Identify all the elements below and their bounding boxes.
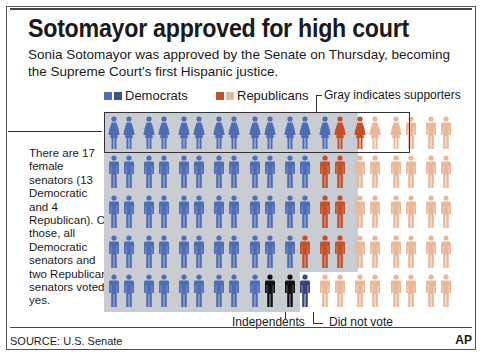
male-senator-icon xyxy=(405,195,417,229)
legend-democrats: Democrats xyxy=(104,88,188,103)
male-senator-icon xyxy=(193,235,205,269)
dem-dark-swatch-icon xyxy=(114,92,122,100)
male-senator-icon xyxy=(334,155,346,189)
male-senator-icon xyxy=(249,155,261,189)
male-senator-icon xyxy=(354,274,366,308)
male-senator-icon xyxy=(425,195,437,229)
male-senator-icon xyxy=(440,116,452,150)
male-senator-icon xyxy=(299,195,311,229)
male-senator-icon xyxy=(390,235,402,269)
legend-republicans-label: Republicans xyxy=(237,88,309,103)
male-senator-icon xyxy=(440,195,452,229)
male-senator-icon xyxy=(390,155,402,189)
source-label: SOURCE: U.S. Senate xyxy=(10,335,123,347)
male-senator-icon xyxy=(213,235,225,269)
male-senator-icon xyxy=(249,274,261,308)
male-senator-icon xyxy=(390,195,402,229)
male-senator-icon xyxy=(123,235,135,269)
legend-democrats-label: Democrats xyxy=(125,88,188,103)
male-senator-icon xyxy=(228,274,240,308)
male-senator-icon xyxy=(369,235,381,269)
gray-note: Gray indicates supporters xyxy=(324,88,461,102)
male-senator-icon xyxy=(264,274,276,308)
male-senator-icon xyxy=(354,195,366,229)
male-senator-icon xyxy=(158,274,170,308)
male-senator-icon xyxy=(213,195,225,229)
male-senator-icon xyxy=(319,235,331,269)
male-senator-icon xyxy=(354,155,366,189)
male-senator-icon xyxy=(284,235,296,269)
male-senator-icon xyxy=(108,235,120,269)
bottom-rule xyxy=(10,327,472,328)
male-senator-icon xyxy=(193,155,205,189)
male-senator-icon xyxy=(228,155,240,189)
male-senator-icon xyxy=(405,235,417,269)
male-senator-icon xyxy=(143,195,155,229)
male-senator-icon xyxy=(440,155,452,189)
male-senator-icon xyxy=(405,155,417,189)
male-senator-icon xyxy=(228,235,240,269)
male-senator-icon xyxy=(123,274,135,308)
male-senator-icon xyxy=(249,235,261,269)
male-senator-icon xyxy=(213,274,225,308)
male-senator-icon xyxy=(284,155,296,189)
male-senator-icon xyxy=(143,235,155,269)
male-senator-icon xyxy=(193,195,205,229)
male-senator-icon xyxy=(425,274,437,308)
male-senator-icon xyxy=(425,235,437,269)
male-senator-icon xyxy=(193,274,205,308)
male-senator-icon xyxy=(178,195,190,229)
male-senator-icon xyxy=(284,195,296,229)
male-senator-icon xyxy=(390,274,402,308)
credit-label: AP xyxy=(455,333,472,347)
dem-swatch-icon xyxy=(104,92,112,100)
female-row-leader xyxy=(8,131,102,132)
male-senator-icon xyxy=(425,155,437,189)
male-senator-icon xyxy=(405,274,417,308)
male-senator-icon xyxy=(178,235,190,269)
male-senator-icon xyxy=(299,155,311,189)
top-rule xyxy=(10,8,472,10)
male-senator-icon xyxy=(213,155,225,189)
male-senator-icon xyxy=(158,195,170,229)
female-senators-note: There are 17 female senators (13 Democra… xyxy=(29,147,109,308)
male-senator-icon xyxy=(425,116,437,150)
male-senator-icon xyxy=(334,195,346,229)
male-senator-icon xyxy=(178,274,190,308)
male-senator-icon xyxy=(354,235,366,269)
male-senator-icon xyxy=(319,195,331,229)
male-senator-icon xyxy=(284,274,296,308)
chart-title: Sotomayor approved for high court xyxy=(28,14,409,43)
male-senator-icon xyxy=(123,155,135,189)
male-senator-icon xyxy=(264,235,276,269)
male-senator-icon xyxy=(334,274,346,308)
male-senator-icon xyxy=(369,274,381,308)
male-senator-icon xyxy=(108,155,120,189)
rep-yes-swatch-icon xyxy=(216,92,224,100)
male-senator-icon xyxy=(299,235,311,269)
male-senator-icon xyxy=(369,155,381,189)
male-senator-icon xyxy=(440,235,452,269)
male-senator-icon xyxy=(319,155,331,189)
did-not-vote-leader-h xyxy=(313,323,323,324)
female-senators-box xyxy=(104,112,410,153)
male-senator-icon xyxy=(319,274,331,308)
male-senator-icon xyxy=(440,274,452,308)
male-senator-icon xyxy=(108,195,120,229)
male-senator-icon xyxy=(228,195,240,229)
male-senator-icon xyxy=(264,195,276,229)
chart-subtitle: Sonia Sotomayor was approved by the Sena… xyxy=(28,46,468,80)
male-senator-icon xyxy=(369,195,381,229)
male-senator-icon xyxy=(158,235,170,269)
male-senator-icon xyxy=(158,155,170,189)
male-senator-icon xyxy=(143,274,155,308)
legend-republicans: Republicans xyxy=(216,88,309,103)
male-senator-icon xyxy=(249,195,261,229)
male-senator-icon xyxy=(178,155,190,189)
male-senator-icon xyxy=(108,274,120,308)
male-senator-icon xyxy=(123,195,135,229)
male-senator-icon xyxy=(143,155,155,189)
male-senator-icon xyxy=(299,274,311,308)
rep-no-swatch-icon xyxy=(226,92,234,100)
male-senator-icon xyxy=(334,235,346,269)
